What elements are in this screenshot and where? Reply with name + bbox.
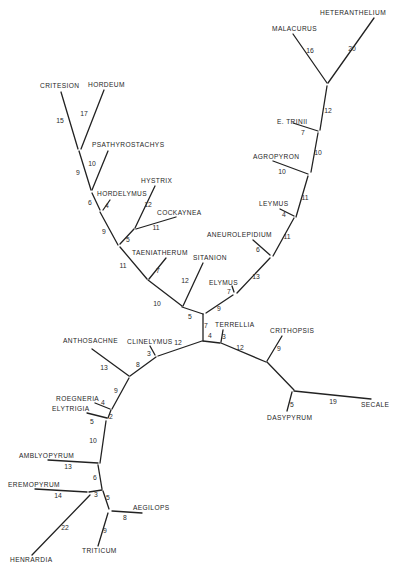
branch-length-label: 2 [109,413,113,420]
branch-length-label: 14 [54,492,62,499]
branch-length-label: 9 [217,305,221,312]
branch-length-label: 8 [123,514,127,521]
branch-length-label: 6 [256,246,260,253]
branch-length-label: 12 [181,277,189,284]
branch-length-label: 11 [301,194,308,201]
taxon-label-eremopyrum: EREMOPYRUM [8,481,60,488]
branch-length-label: 3 [222,333,226,340]
b-psathyrostachys [92,151,108,190]
branch-length-label: 11 [119,262,126,269]
taxon-labels: HETERANTHELIUMMALACURUSCRITESIONHORDEUME… [8,9,390,563]
branch-length-label: 11 [283,233,290,240]
branch-length-labels: 2016127101011411613791257107115121194610… [54,45,356,534]
branch-length-label: 10 [89,437,97,444]
b-4-terrellia [203,341,220,343]
branch-length-label: 13 [64,463,72,470]
taxon-label-e-trinii: E. TRINII [277,118,308,125]
branch-length-label: 10 [153,300,161,307]
branch-length-label: 11 [152,224,159,231]
b-elymus [232,286,234,292]
branch-lines [32,18,374,555]
taxon-label-aegilops: AEGILOPS [133,504,170,511]
branch-length-label: 16 [306,47,314,54]
branch-length-label: 10 [278,168,286,175]
branch-length-label: 12 [324,107,332,114]
taxon-label-clinelymus: CLINELYMUS [127,338,173,345]
taxon-label-malacurus: MALACURUS [272,25,317,32]
branch-length-label: 9 [114,387,118,394]
branch-length-label: 4 [101,399,105,406]
branch-length-label: 22 [61,524,69,531]
branch-length-label: 12 [144,201,152,208]
taxon-label-henrardia: HENRARDIA [10,556,53,563]
b-anthosachne [92,349,129,376]
taxon-label-aneurolepidium: ANEUROLEPIDIUM [207,231,272,238]
b-9-top [79,151,91,190]
branch-length-label: 7 [301,129,305,136]
taxon-label-hordeum: HORDEUM [88,81,125,88]
taxon-label-agropyron: AGROPYRON [253,153,299,160]
branch-length-label: 9 [76,169,80,176]
branch-length-label: 19 [329,398,337,405]
branch-length-label: 5 [126,236,130,243]
branch-length-label: 4 [105,202,109,209]
taxon-label-sitanion: SITANION [193,254,227,261]
branch-length-label: 8 [136,361,140,368]
b-5-center [182,307,203,314]
branch-length-label: 13 [252,273,260,280]
branch-length-label: 4 [282,211,286,218]
taxon-label-amblyopyrum: AMBLYOPYRUM [19,452,74,459]
taxon-label-secale: SECALE [361,401,390,408]
branch-length-label: 9 [103,527,107,534]
branch-length-label: 4 [208,332,212,339]
b-aegilops [112,511,142,513]
branch-length-label: 13 [100,364,108,371]
taxon-label-taeniatherum: TAENIATHERUM [132,249,188,256]
branch-length-label: 20 [348,45,356,52]
taxon-label-elymus: ELYMUS [209,279,238,286]
phylogenetic-tree: 2016127101011411613791257107115121194610… [0,0,409,573]
branch-length-label: 5 [90,418,94,425]
branch-length-label: 10 [314,149,322,156]
taxon-label-dasypyrum: DASYPYRUM [267,414,312,421]
taxon-label-roegneria: ROEGNERIA [56,395,99,402]
b-10-lower [100,421,106,463]
branch-length-label: 9 [277,345,281,352]
taxon-label-crithopsis: CRITHOPSIS [270,327,315,334]
branch-length-label: 5 [188,313,192,320]
taxon-label-terrellia: TERRELLIA [215,321,255,328]
taxon-label-cockaynea: COCKAYNEA [157,209,202,216]
branch-length-label: 5 [106,494,110,501]
taxon-label-elytrigia: ELYTRIGIA [52,405,90,412]
taxon-label-hordelymus: HORDELYMUS [97,190,147,197]
b-amblyopyrum [48,460,98,463]
branch-length-label: 6 [93,474,97,481]
branch-length-label: 6 [88,199,92,206]
b-to-secale-node [267,362,294,390]
b-6-lower [98,465,102,489]
b-sitanion [183,263,203,306]
taxon-label-psathyrostachys: PSATHYROSTACHYS [92,141,165,148]
branch-length-label: 3 [147,350,151,357]
branch-length-label: 9 [102,228,106,235]
taxon-label-anthosachne: ANTHOSACHNE [63,337,118,344]
branch-length-label: 7 [156,267,160,274]
taxon-label-leymus: LEYMUS [259,200,289,207]
taxon-label-critesion: CRITESION [40,82,80,89]
b-8 [130,357,156,376]
b-malacurus [293,34,327,83]
branch-length-label: 12 [236,344,244,351]
branch-length-label: 12 [174,339,182,346]
taxon-label-triticum: TRITICUM [82,547,117,554]
branch-length-label: 3 [94,491,98,498]
taxon-label-heteranthelium: HETERANTHELIUM [320,9,386,16]
taxon-label-hystrix: HYSTRIX [141,177,173,184]
branch-length-label: 7 [204,322,208,329]
branch-length-label: 7 [227,288,231,295]
branch-length-label: 10 [88,160,96,167]
branch-length-label: 15 [56,117,64,124]
branch-length-label: 5 [290,401,294,408]
branch-length-label: 17 [80,110,88,117]
